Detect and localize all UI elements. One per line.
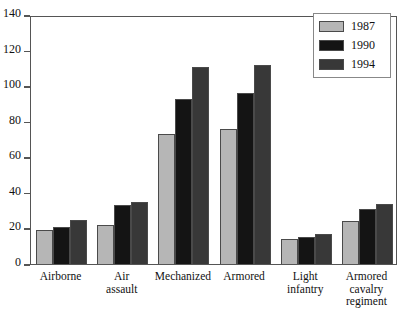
bar-1994 [131, 202, 148, 264]
bar-1987 [281, 239, 298, 264]
bar-1987 [342, 221, 359, 264]
x-axis-category-label: Armored [214, 270, 275, 283]
legend-swatch [319, 40, 344, 51]
x-axis-category-label: Airborne [30, 270, 91, 283]
bar-1990 [298, 237, 315, 264]
bar-group [153, 15, 214, 264]
legend-label: 1994 [351, 58, 375, 70]
y-axis-tick-label: 120 [3, 43, 21, 55]
bar-1994 [254, 65, 271, 264]
x-axis-category-label: Armored cavalry regiment [336, 270, 397, 308]
bar-1994 [192, 67, 209, 264]
legend-item: 1987 [319, 18, 385, 34]
bar-group [215, 15, 276, 264]
bar-group [31, 15, 92, 264]
bar-1990 [359, 209, 376, 264]
x-axis-category-label: Light infantry [275, 270, 336, 295]
legend-label: 1987 [351, 20, 375, 32]
y-axis-tick-label: 100 [3, 78, 21, 90]
legend-item: 1994 [319, 56, 385, 72]
x-axis-category-label: Air assault [91, 270, 152, 295]
bar-1994 [315, 234, 332, 264]
x-axis-category-label: Mechanized [152, 270, 213, 283]
bar-1994 [70, 220, 87, 264]
legend: 198719901994 [313, 13, 391, 78]
bar-1987 [36, 230, 53, 264]
bar-chart: 020406080100120140 AirborneAir assaultMe… [0, 0, 409, 321]
bar-group [92, 15, 153, 264]
y-axis-tick-label: 140 [3, 7, 21, 19]
y-axis-tick-label: 20 [9, 220, 21, 232]
bar-1990 [237, 93, 254, 264]
bar-1994 [376, 204, 393, 264]
legend-swatch [319, 59, 344, 70]
legend-label: 1990 [351, 39, 375, 51]
bar-1990 [114, 205, 131, 264]
y-axis-tick-label: 60 [9, 149, 21, 161]
y-axis-tick-label: 80 [9, 114, 21, 126]
bar-1990 [175, 99, 192, 264]
bar-1987 [97, 225, 114, 264]
bar-1987 [220, 129, 237, 264]
y-axis-tick-label: 0 [15, 256, 21, 268]
y-axis-tick-label: 40 [9, 185, 21, 197]
bar-1990 [53, 227, 70, 264]
bar-1987 [158, 134, 175, 264]
legend-swatch [319, 21, 344, 32]
legend-item: 1990 [319, 37, 385, 53]
